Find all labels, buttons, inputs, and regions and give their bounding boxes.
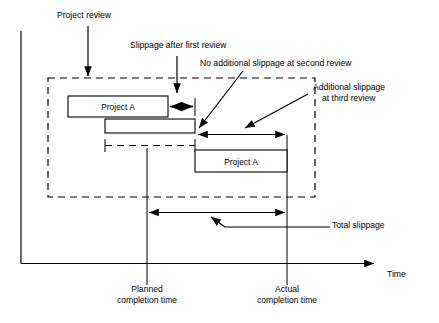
additional-slippage-label-line2: at third review: [322, 93, 376, 103]
actual-completion-label-line1: Actual: [275, 284, 299, 294]
actual-schedule-bar-label: Project A: [224, 157, 258, 167]
planned-completion-label-line2: completion time: [117, 295, 177, 305]
planned-schedule-bar-label: Project A: [101, 102, 135, 112]
actual-completion-label-line2: completion time: [257, 295, 317, 305]
project-review-label: Project review: [57, 10, 112, 20]
time-axis-label: Time: [387, 269, 406, 279]
diagram-text-layer: Project review Slippage after first revi…: [0, 0, 439, 323]
no-additional-slippage-label: No additional slippage at second review: [200, 58, 352, 68]
additional-slippage-label-line1: Additional slippage: [313, 82, 385, 92]
slippage-diagram: Project review Slippage after first revi…: [0, 0, 439, 323]
slippage-after-first-review-label: Slippage after first review: [130, 40, 227, 50]
total-slippage-label: Total slippage: [332, 220, 385, 230]
planned-completion-label-line1: Planned: [131, 284, 163, 294]
